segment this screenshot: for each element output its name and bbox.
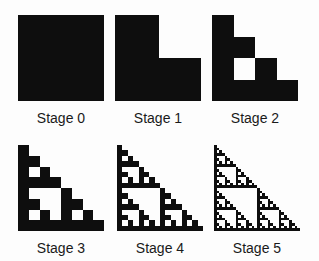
stage-2-figure [212,15,298,101]
stage-2-label: Stage 2 [205,110,305,126]
stage-0-label: Stage 0 [11,110,111,126]
stage-5-figure [214,145,300,231]
stage-1-label: Stage 1 [108,110,208,126]
stage-5-graphic [214,145,300,231]
stage-3-graphic [18,145,104,231]
stage-4-label: Stage 4 [110,240,210,256]
stage-3-label: Stage 3 [11,240,111,256]
stage-2-graphic [212,15,298,101]
stage-1-graphic [115,15,201,101]
stage-0-graphic [18,15,104,101]
stage-5-label: Stage 5 [207,240,307,256]
stage-1-figure [115,15,201,101]
stage-4-figure [117,145,203,231]
stage-4-graphic [117,145,203,231]
stage-3-figure [18,145,104,231]
stage-0-figure [18,15,104,101]
